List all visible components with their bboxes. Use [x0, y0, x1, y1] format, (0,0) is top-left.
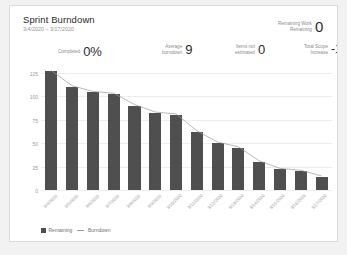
x-axis-tick: 3/9/2020 — [144, 196, 165, 226]
chart-axes: 0255075100125 — [41, 67, 332, 190]
sprint-burndown-card: Sprint Burndown 3/4/2020 – 3/17/2020 Rem… — [9, 5, 338, 242]
x-axis-tick: 3/8/2020 — [124, 196, 145, 226]
x-axis-tick: 3/4/2020 — [41, 196, 62, 226]
kpi-completed-label: Completed — [58, 49, 80, 54]
x-axis-tick: 3/13/2020 — [227, 196, 248, 226]
page-title: Sprint Burndown — [23, 14, 95, 25]
y-axis-tick: 50 — [32, 141, 41, 147]
burndown-line — [41, 67, 332, 190]
x-axis-tick-label: 3/4/2020 — [43, 193, 59, 209]
x-axis-tick-label: 3/11/2020 — [186, 193, 203, 210]
x-axis-tick-label: 3/8/2020 — [125, 193, 141, 209]
kpi-completed-value: 0% — [83, 45, 101, 58]
x-axis-tick: 3/7/2020 — [103, 196, 124, 226]
chart-legend: Remaining Burndown — [41, 227, 110, 233]
legend-square-icon — [41, 228, 46, 233]
x-axis-tick-label: 3/16/2020 — [289, 193, 306, 210]
screenshot-root: Sprint Burndown 3/4/2020 – 3/17/2020 Rem… — [0, 0, 347, 255]
x-axis-tick: 3/6/2020 — [82, 196, 103, 226]
kpi-items-not-estimated-value: 0 — [258, 43, 265, 56]
x-axis-tick: 3/16/2020 — [289, 196, 310, 226]
kpi-total-scope-increase: Total Scope Increase -127 — [304, 40, 338, 58]
kpi-items-not-estimated: Items not estimated 0 — [235, 40, 265, 58]
y-axis-tick: 75 — [32, 118, 41, 124]
kpi-average-burndown: Average burndown 9 — [162, 40, 192, 58]
kpi-total-scope-increase-value: -127 — [331, 43, 338, 56]
kpi-remaining-work-value: 0 — [315, 20, 323, 33]
kpi-remaining-work-label: Remaining Work Remaining — [278, 21, 312, 32]
kpi-total-scope-increase-label: Total Scope Increase — [304, 44, 328, 55]
y-axis-tick: 125 — [30, 71, 41, 77]
kpi-average-burndown-value: 9 — [185, 43, 192, 56]
x-axis-tick: 3/5/2020 — [62, 196, 83, 226]
x-axis-tick-label: 3/12/2020 — [207, 193, 224, 210]
y-axis-tick: 25 — [32, 165, 41, 171]
x-axis-tick-label: 3/14/2020 — [248, 193, 265, 210]
x-axis-tick: 3/17/2020 — [309, 196, 330, 226]
legend-item-burndown: Burndown — [77, 227, 110, 233]
x-axis-tick: 3/12/2020 — [206, 196, 227, 226]
x-axis-tick: 3/11/2020 — [185, 196, 206, 226]
legend-item-remaining: Remaining — [41, 227, 72, 233]
legend-item-remaining-label: Remaining — [49, 227, 73, 233]
kpi-remaining-work: Remaining Work Remaining 0 — [278, 17, 323, 35]
x-axis-tick: 3/15/2020 — [268, 196, 289, 226]
x-axis-tick-label: 3/6/2020 — [84, 193, 100, 209]
kpi-completed: Completed0% — [58, 42, 102, 60]
gridline: 0 — [41, 190, 332, 191]
y-axis-tick: 100 — [30, 94, 41, 100]
kpi-average-burndown-label: Average burndown — [162, 44, 182, 55]
x-axis-tick-label: 3/17/2020 — [310, 193, 327, 210]
x-axis-tick: 3/14/2020 — [247, 196, 268, 226]
legend-item-burndown-label: Burndown — [88, 227, 111, 233]
chart-x-axis-labels: 3/4/20203/5/20203/6/20203/7/20203/8/2020… — [41, 196, 330, 226]
x-axis-tick-label: 3/10/2020 — [165, 193, 182, 210]
x-axis-tick-label: 3/13/2020 — [227, 193, 244, 210]
chart-plot-area: 0255075100125 — [10, 61, 338, 196]
legend-line-icon — [77, 230, 84, 231]
x-axis-tick-label: 3/15/2020 — [269, 193, 286, 210]
card-header: Sprint Burndown 3/4/2020 – 3/17/2020 Rem… — [10, 6, 337, 58]
date-range: 3/4/2020 – 3/17/2020 — [23, 26, 74, 32]
x-axis-tick-label: 3/5/2020 — [63, 193, 79, 209]
kpi-items-not-estimated-label: Items not estimated — [235, 44, 255, 55]
x-axis-tick-label: 3/7/2020 — [105, 193, 121, 209]
x-axis-tick-label: 3/9/2020 — [146, 193, 162, 209]
x-axis-tick: 3/10/2020 — [165, 196, 186, 226]
